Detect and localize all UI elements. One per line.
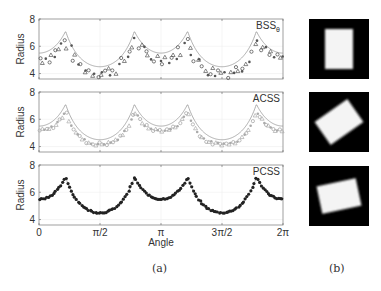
x-axis-label: Angle: [148, 237, 174, 248]
y-tick-label: 4: [29, 68, 35, 79]
y-axis-label: Radius: [15, 179, 26, 210]
y-tick-label: 4: [29, 141, 35, 152]
x-tick-label: π/2: [92, 227, 108, 238]
subplot-acss: 468RadiusACSS: [15, 87, 284, 153]
y-tick-label: 6: [29, 41, 35, 52]
subplot-bss: 468RadiusBSSθ: [15, 14, 284, 80]
subplot-pcss: 468RadiusPCSS: [15, 160, 283, 226]
image-rectangle-rotated-slight: [309, 166, 369, 226]
y-axis-label: Radius: [15, 106, 26, 137]
y-tick-label: 4: [29, 214, 35, 225]
subplot-title: PCSS: [253, 166, 281, 177]
x-tick-label: 3π/2: [212, 227, 233, 238]
y-tick-label: 8: [29, 160, 35, 171]
figure: 468RadiusBSSθ468RadiusACSS468RadiusPCSS0…: [0, 0, 381, 291]
caption-a: (a): [152, 262, 167, 275]
subplot-title: BSSθ: [256, 20, 280, 33]
y-axis-label: Radius: [15, 33, 26, 64]
subplot-title: ACSS: [253, 93, 281, 104]
image-rectangle-upright: [309, 19, 369, 79]
y-tick-label: 6: [29, 114, 35, 125]
y-tick-label: 8: [29, 14, 35, 25]
caption-b: (b): [329, 262, 345, 275]
y-tick-label: 6: [29, 187, 35, 198]
y-tick-label: 8: [29, 87, 35, 98]
x-tick-label: 2π: [277, 227, 290, 238]
image-rectangle-rotated-ccw: [309, 92, 369, 152]
x-tick-label: 0: [36, 227, 42, 238]
